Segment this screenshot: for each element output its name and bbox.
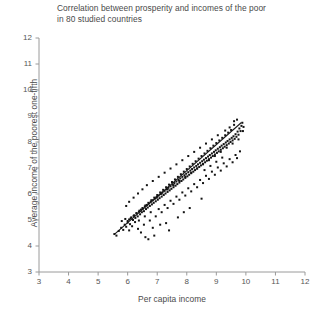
scatter-point [222, 147, 224, 149]
scatter-point [239, 150, 241, 152]
scatter-point [177, 216, 179, 218]
scatter-point [199, 162, 201, 164]
scatter-point [145, 208, 147, 210]
scatter-point [141, 207, 143, 209]
scatter-point [168, 229, 170, 231]
scatter-point [217, 166, 219, 168]
scatter-point [183, 171, 185, 173]
scatter-point [153, 202, 155, 204]
scatter-point [175, 185, 177, 187]
scatter-point [236, 119, 238, 121]
scatter-point [232, 143, 234, 145]
scatter-point [192, 171, 194, 173]
scatter-point [189, 165, 191, 167]
scatter-point [161, 211, 163, 213]
scatter-point [235, 136, 237, 138]
scatter-point [171, 181, 173, 183]
scatter-point [159, 197, 161, 199]
y-tick-label: 10 [12, 85, 32, 94]
scatter-point [155, 200, 157, 202]
scatter-point [173, 182, 175, 184]
scatter-point [217, 148, 219, 150]
scatter-point [137, 192, 139, 194]
scatter-point [153, 197, 155, 199]
scatter-point [163, 194, 165, 196]
scatter-point [208, 178, 210, 180]
x-tick-label: 8 [177, 277, 197, 286]
scatter-point [139, 213, 141, 215]
scatter-point [158, 176, 160, 178]
scatter-point [213, 151, 215, 153]
scatter-point [175, 181, 177, 183]
scatter-point [132, 219, 134, 221]
scatter-point [206, 160, 208, 162]
scatter-point [208, 159, 210, 161]
scatter-point [181, 159, 183, 161]
scatter-point [242, 130, 244, 132]
scatter-point [124, 218, 126, 220]
scatter-point [152, 227, 154, 229]
scatter-point [228, 143, 230, 145]
scatter-point [180, 173, 182, 175]
scatter-point [204, 169, 206, 171]
scatter-point [140, 231, 142, 233]
scatter-point [170, 200, 172, 202]
scatter-point [157, 199, 159, 201]
scatter-point [196, 186, 198, 188]
scatter-point [143, 224, 145, 226]
scatter-point [144, 236, 146, 238]
scatter-point [214, 155, 216, 157]
scatter-point [243, 126, 245, 128]
scatter-point [146, 184, 148, 186]
scatter-point [211, 171, 213, 173]
scatter-point [174, 178, 176, 180]
scatter-point [156, 194, 158, 196]
scatter-point [137, 215, 139, 217]
scatter-point [188, 174, 190, 176]
scatter-point [150, 211, 152, 213]
scatter-point [198, 166, 200, 168]
scatter-point [144, 215, 146, 217]
scatter-point [152, 180, 154, 182]
scatter-point [207, 156, 209, 158]
scatter-point [162, 189, 164, 191]
scatter-point [224, 146, 226, 148]
scatter-point [234, 138, 236, 140]
scatter-point [183, 211, 185, 213]
scatter-point [121, 220, 123, 222]
scatter-point [231, 137, 233, 139]
scatter-point [165, 222, 167, 224]
scatter-point [172, 203, 174, 205]
scatter-point [196, 168, 198, 170]
scatter-point [137, 228, 139, 230]
scatter-point [161, 192, 163, 194]
scatter-point [214, 174, 216, 176]
y-tick-label: 6 [12, 189, 32, 198]
scatter-point [113, 233, 115, 235]
scatter-point [233, 124, 235, 126]
scatter-point [221, 145, 223, 147]
scatter-point [204, 152, 206, 154]
scatter-point [141, 211, 143, 213]
scatter-point [186, 168, 188, 170]
scatter-point [178, 199, 180, 201]
scatter-point [212, 155, 214, 157]
scatter-point [184, 176, 186, 178]
scatter-point [161, 196, 163, 198]
y-tick-label: 4 [12, 241, 32, 250]
scatter-point [165, 192, 167, 194]
scatter-point [170, 188, 172, 190]
scatter-point [138, 220, 140, 222]
scatter-point [240, 125, 242, 127]
scatter-point [170, 168, 172, 170]
scatter-point [238, 134, 240, 136]
scatter-point [147, 238, 149, 240]
scatter-point [199, 179, 201, 181]
scatter-point [167, 191, 169, 193]
scatter-point [124, 224, 126, 226]
scatter-point [131, 225, 133, 227]
scatter-point [189, 170, 191, 172]
x-tick-label: 11 [265, 277, 285, 286]
scatter-point [165, 186, 167, 188]
y-tick-label: 12 [12, 33, 32, 42]
